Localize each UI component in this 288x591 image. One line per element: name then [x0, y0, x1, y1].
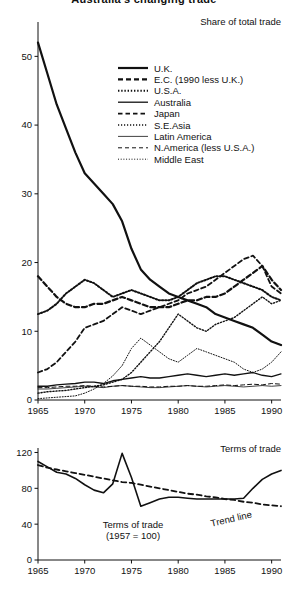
top-chart-x-tick-labels: 196519701975198019851990: [27, 405, 282, 416]
x-tick-label: 1975: [121, 565, 142, 576]
clipped-figure-title: Australia's changing trade: [0, 0, 288, 8]
series-line: [38, 465, 281, 506]
y-tick-label: 10: [21, 326, 32, 337]
y-tick-label: 50: [21, 51, 32, 62]
legend-label: N.America (less U.S.A.): [154, 142, 254, 153]
annotation-terms-of-trade-base: (1957 = 100): [106, 530, 160, 541]
y-tick-label: 20: [21, 257, 32, 268]
bottom-chart-y-tick-labels: 04080120: [16, 447, 32, 566]
series-line: [38, 297, 281, 393]
x-tick-label: 1990: [261, 405, 282, 416]
x-tick-label: 1975: [121, 405, 142, 416]
x-tick-label: 1990: [261, 565, 282, 576]
x-tick-label: 1980: [168, 565, 189, 576]
x-tick-label: 1985: [214, 565, 235, 576]
series-line: [38, 453, 281, 506]
bottom-chart-x-tick-labels: 196519701975198019851990: [27, 565, 282, 576]
series-line: [38, 256, 281, 373]
x-tick-label: 1970: [74, 565, 95, 576]
legend-label: Latin America: [154, 131, 212, 142]
bottom-chart: Terms of trade 04080120 1965197019751980…: [16, 443, 282, 576]
x-tick-label: 1970: [74, 405, 95, 416]
y-tick-label: 30: [21, 188, 32, 199]
legend-label: Japan: [154, 108, 180, 119]
bottom-chart-axes: [35, 448, 282, 564]
legend-label: U.S.A.: [154, 85, 181, 96]
legend-label: Australia: [154, 97, 192, 108]
y-tick-label: 40: [21, 119, 32, 130]
x-tick-label: 1985: [214, 405, 235, 416]
legend-label: S.E.Asia: [154, 120, 191, 131]
bottom-chart-title: Terms of trade: [220, 443, 281, 454]
annotation-trend-line: Trend line: [210, 509, 253, 529]
legend-label: Middle East: [154, 154, 204, 165]
series-line: [38, 373, 281, 387]
bottom-chart-series: [38, 453, 281, 506]
legend-label: E.C. (1990 less U.K.): [154, 74, 243, 85]
charts-svg: Share of total trade 01020304050 1965197…: [0, 0, 288, 591]
x-tick-label: 1980: [168, 405, 189, 416]
series-line: [38, 276, 281, 314]
y-tick-label: 80: [21, 483, 32, 494]
chart-legend: U.K.E.C. (1990 less U.K.)U.S.A.Australia…: [118, 63, 254, 165]
x-tick-label: 1965: [27, 565, 48, 576]
y-tick-label: 0: [27, 554, 32, 565]
figure-root: Australia's changing trade Share of tota…: [0, 0, 288, 591]
y-tick-label: 120: [16, 447, 32, 458]
top-chart: Share of total trade 01020304050 1965197…: [21, 16, 282, 416]
annotation-terms-of-trade: Terms of trade: [103, 519, 164, 530]
top-chart-title: Share of total trade: [200, 16, 281, 27]
y-tick-label: 40: [21, 519, 32, 530]
y-tick-label: 0: [27, 394, 32, 405]
x-tick-label: 1965: [27, 405, 48, 416]
top-chart-y-tick-labels: 01020304050: [21, 51, 32, 406]
legend-label: U.K.: [154, 63, 172, 74]
